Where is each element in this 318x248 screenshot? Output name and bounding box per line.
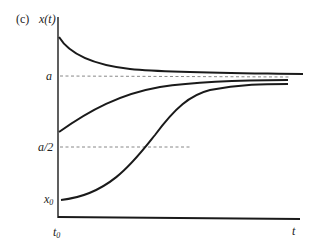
t0-subscript: 0 — [56, 231, 60, 240]
x0-subscript: 0 — [49, 198, 53, 207]
x-axis-label: t — [292, 225, 295, 237]
reference-line-a — [60, 76, 290, 77]
curve-logistic-from-x0 — [61, 84, 288, 200]
curve-between-half-and-a — [59, 80, 288, 132]
x-origin-label: t0 — [53, 226, 60, 240]
tick-label-half-a: a/2 — [38, 141, 53, 153]
tick-label-x0: x0 — [44, 193, 53, 207]
plot-area — [0, 0, 318, 248]
x-axis — [58, 217, 300, 219]
tick-label-a: a — [46, 70, 52, 82]
panel-label: (c) — [16, 13, 29, 25]
curve-above-a — [59, 37, 303, 74]
y-axis-label: x(t) — [39, 13, 56, 25]
